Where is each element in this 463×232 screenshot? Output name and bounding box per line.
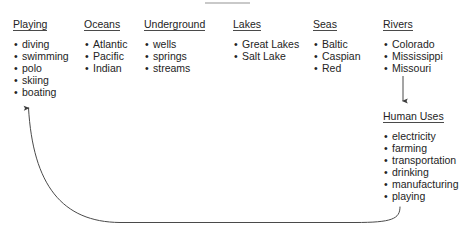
list-item: Mississippi [383, 50, 443, 62]
item-list-underground: wells springs streams [144, 38, 205, 74]
column-oceans: Oceans Atlantic Pacific Indian [84, 14, 127, 74]
column-playing: Playing diving swimming polo skiing boat… [13, 14, 69, 98]
list-item: Salt Lake [233, 50, 299, 62]
item-list-rivers: Colorado Mississippi Missouri [383, 38, 443, 74]
arrow-human-uses-playing-to-playing [29, 108, 401, 223]
list-item: Atlantic [84, 38, 127, 50]
list-item: diving [13, 38, 69, 50]
list-item: Pacific [84, 50, 127, 62]
list-item: Baltic [313, 38, 361, 50]
list-item: manufacturing [383, 178, 459, 190]
column-human-uses: Human Uses electricity farming transport… [383, 106, 459, 202]
column-heading-human-uses: Human Uses [383, 110, 444, 123]
item-list-lakes: Great Lakes Salt Lake [233, 38, 299, 62]
column-heading-playing: Playing [13, 18, 47, 31]
item-list-playing: diving swimming polo skiing boating [13, 38, 69, 98]
list-item: skiing [13, 74, 69, 86]
top-divider-rule [205, 2, 250, 4]
item-list-seas: Baltic Caspian Red [313, 38, 361, 74]
column-heading-oceans: Oceans [84, 18, 120, 31]
list-item: Red [313, 62, 361, 74]
column-heading-rivers: Rivers [383, 18, 413, 31]
concept-map-diagram: Playing diving swimming polo skiing boat… [0, 0, 463, 232]
list-item: boating [13, 86, 69, 98]
list-item: Colorado [383, 38, 443, 50]
list-item: polo [13, 62, 69, 74]
column-seas: Seas Baltic Caspian Red [313, 14, 361, 74]
list-item: streams [144, 62, 205, 74]
list-item: Great Lakes [233, 38, 299, 50]
column-rivers: Rivers Colorado Mississippi Missouri [383, 14, 443, 74]
column-lakes: Lakes Great Lakes Salt Lake [233, 14, 299, 62]
item-list-oceans: Atlantic Pacific Indian [84, 38, 127, 74]
list-item: farming [383, 142, 459, 154]
list-item: Missouri [383, 62, 443, 74]
list-item: drinking [383, 166, 459, 178]
list-item: springs [144, 50, 205, 62]
list-item: swimming [13, 50, 69, 62]
list-item: transportation [383, 154, 459, 166]
list-item: Indian [84, 62, 127, 74]
column-heading-lakes: Lakes [233, 18, 261, 31]
list-item: playing [383, 190, 459, 202]
list-item: wells [144, 38, 205, 50]
list-item: Caspian [313, 50, 361, 62]
list-item: electricity [383, 130, 459, 142]
column-underground: Underground wells springs streams [144, 14, 205, 74]
column-heading-underground: Underground [144, 18, 205, 31]
column-heading-seas: Seas [313, 18, 337, 31]
item-list-human-uses: electricity farming transportation drink… [383, 130, 459, 202]
